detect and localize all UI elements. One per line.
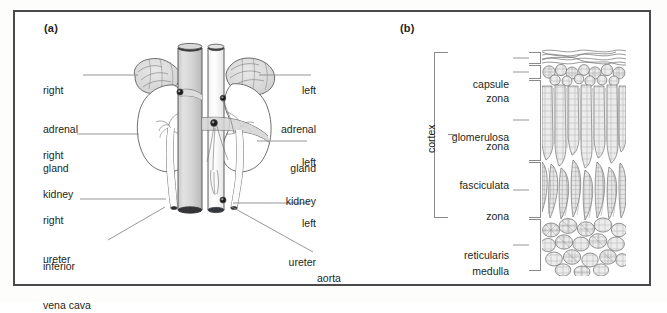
label-line: inferior: [43, 260, 91, 273]
panel-a-letter: (a): [44, 22, 58, 34]
label-line: left: [258, 156, 316, 169]
label-line: right: [43, 214, 70, 227]
capsule-bracket: [529, 52, 541, 64]
label-line: left: [258, 217, 316, 230]
adrenal-histology-illustration: [542, 48, 626, 276]
label-line: aorta: [317, 272, 341, 285]
zona-glomerulosa-bracket: [529, 65, 541, 79]
inferior-vena-cava-shape: [178, 43, 202, 213]
label-line: medulla: [425, 265, 509, 278]
label-line: zona: [425, 92, 509, 105]
label-inferior-vena-cava: inferior vena cava: [43, 234, 91, 313]
label-line: zona: [425, 210, 509, 223]
label-line: zona: [425, 140, 509, 153]
medulla-bracket: [529, 219, 541, 271]
label-left-ureter: left ureter: [258, 191, 316, 295]
label-line: right: [43, 149, 73, 162]
zona-glomerulosa-tissue: [543, 64, 625, 86]
capsule-tissue: [542, 50, 626, 65]
medulla-tissue: [542, 218, 626, 276]
zona-reticularis-tissue: [542, 160, 626, 220]
label-medulla: medulla: [425, 239, 509, 304]
zona-fasciculata-bracket: [529, 80, 541, 161]
zona-fasciculata-tissue: [542, 85, 626, 168]
label-line: ureter: [258, 256, 316, 269]
label-line: left: [258, 84, 316, 97]
panel-b-letter: (b): [400, 22, 415, 34]
zona-reticularis-bracket: [529, 162, 541, 218]
label-line: right: [43, 84, 78, 97]
label-aorta: aorta: [317, 246, 341, 311]
label-line: vena cava: [43, 299, 91, 312]
